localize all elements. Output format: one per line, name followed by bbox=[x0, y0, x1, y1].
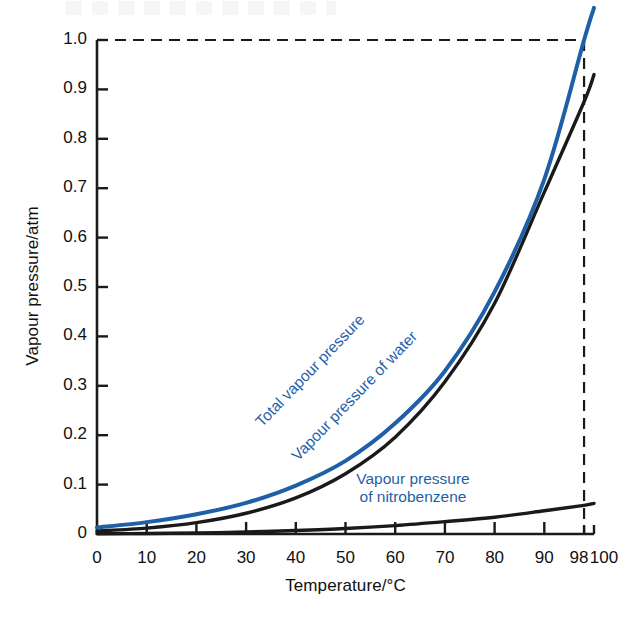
x-tick-label-10: 10 bbox=[123, 548, 171, 568]
y-tick-label-0.2: 0.2 bbox=[35, 424, 87, 444]
y-tick-label-0: 0 bbox=[35, 523, 87, 543]
y-tick-label-0.3: 0.3 bbox=[35, 375, 87, 395]
curve-label-nitro-line2: of nitrobenzene bbox=[318, 488, 508, 506]
y-tick-label-0.4: 0.4 bbox=[35, 325, 87, 345]
x-tick-label-20: 20 bbox=[172, 548, 220, 568]
x-tick-label-40: 40 bbox=[272, 548, 320, 568]
x-tick-label-70: 70 bbox=[421, 548, 469, 568]
x-tick-label-50: 50 bbox=[322, 548, 370, 568]
y-tick-label-1.0: 1.0 bbox=[35, 29, 87, 49]
y-tick-label-0.5: 0.5 bbox=[35, 276, 87, 296]
chart-figure: Vapour pressure/atm Temperature/°C Total… bbox=[0, 0, 626, 619]
y-tick-label-0.1: 0.1 bbox=[35, 474, 87, 494]
y-tick-label-0.9: 0.9 bbox=[35, 78, 87, 98]
chart-plot-area bbox=[0, 0, 626, 619]
curve-label-nitro-line1: Vapour pressure bbox=[356, 470, 469, 487]
y-tick-label-0.7: 0.7 bbox=[35, 177, 87, 197]
x-tick-label-30: 30 bbox=[222, 548, 270, 568]
curve-total-vapour-pressure bbox=[97, 8, 594, 528]
y-tick-label-0.8: 0.8 bbox=[35, 128, 87, 148]
curve-label-vapour-pressure-of-nitrobenzene: Vapour pressure of nitrobenzene bbox=[318, 470, 508, 507]
x-tick-label-80: 80 bbox=[471, 548, 519, 568]
x-tick-label-100: 100 bbox=[580, 548, 626, 568]
x-tick-label-0: 0 bbox=[73, 548, 121, 568]
x-tick-label-60: 60 bbox=[371, 548, 419, 568]
y-tick-label-0.6: 0.6 bbox=[35, 227, 87, 247]
x-axis-title: Temperature/°C bbox=[97, 576, 594, 596]
